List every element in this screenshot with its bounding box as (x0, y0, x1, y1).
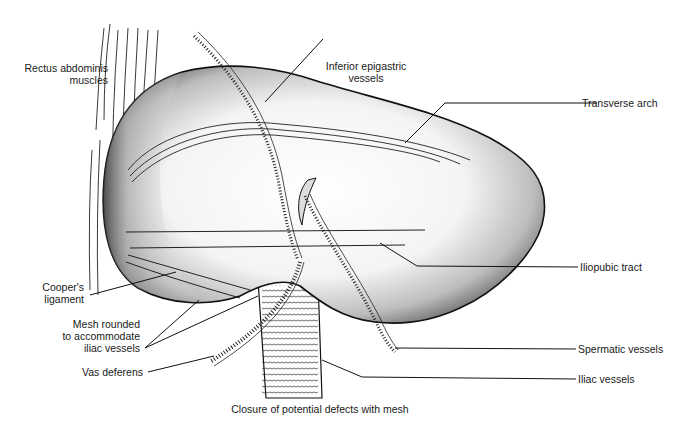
label-line: ligament (20, 293, 84, 305)
label-line: vessels (316, 72, 416, 84)
iliac-vessels-shape (258, 280, 322, 398)
figure-caption: Closure of potential defects with mesh (190, 403, 450, 415)
anatomical-diagram: Rectus abdominis muscles Inferior epigas… (0, 0, 686, 426)
label-mesh-rounded: Mesh rounded to accommodate iliac vessel… (40, 318, 140, 354)
label-line: Inferior epigastric (316, 60, 416, 72)
label-line: to accommodate (40, 330, 140, 342)
label-iliopubic-tract: Iliopubic tract (580, 261, 642, 273)
label-iliac-vessels: Iliac vessels (578, 373, 635, 385)
label-coopers-ligament: Cooper's ligament (20, 281, 84, 305)
label-line: muscles (12, 74, 108, 86)
label-rectus-abdominis: Rectus abdominis muscles (12, 62, 108, 86)
label-line: Cooper's (20, 281, 84, 293)
label-line: Rectus abdominis (12, 62, 108, 74)
label-transverse-arch: Transverse arch (582, 97, 657, 109)
label-inferior-epigastric: Inferior epigastric vessels (316, 60, 416, 84)
label-spermatic-vessels: Spermatic vessels (578, 343, 663, 355)
label-line: iliac vessels (40, 342, 140, 354)
label-vas-deferens: Vas deferens (60, 366, 143, 378)
label-line: Mesh rounded (40, 318, 140, 330)
